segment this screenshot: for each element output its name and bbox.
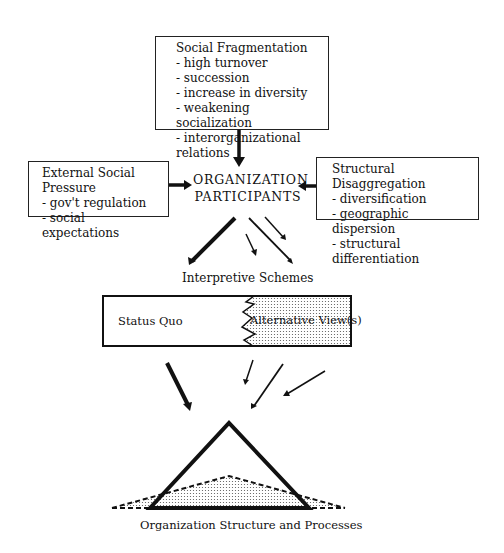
fragmentation-item: - interorganizational relations	[176, 131, 320, 161]
social-fragmentation-title: Social Fragmentation	[176, 41, 320, 56]
fragmentation-item: - weakening socialization	[176, 101, 320, 131]
fragmentation-item: - high turnover	[176, 56, 320, 71]
disaggregation-item: - structural differentiation	[332, 237, 470, 267]
structural-disaggregation-box: Structural Disaggregation - diversificat…	[316, 157, 479, 220]
disaggregation-item: - diversification	[332, 192, 470, 207]
external-pressure-title: External Social Pressure	[42, 166, 160, 196]
external-social-pressure-box: External Social Pressure - gov't regulat…	[28, 161, 169, 217]
organization-structure-label: Organization Structure and Processes	[140, 518, 362, 532]
fragmentation-item: - succession	[176, 71, 320, 86]
alternative-views-label: Alternative View(s)	[250, 313, 362, 327]
structure-triangles	[112, 423, 345, 508]
social-fragmentation-box: Social Fragmentation - high turnover - s…	[155, 36, 329, 130]
external-pressure-item: - social expectations	[42, 211, 160, 241]
organization-label: ORGANIZATION	[193, 172, 303, 187]
structural-disaggregation-title: Structural Disaggregation	[332, 162, 470, 192]
status-quo-label: Status Quo	[118, 314, 183, 328]
interpretive-schemes-label: Interpretive Schemes	[182, 271, 313, 285]
arrow-external-to-participants	[169, 180, 192, 190]
arrows-participants-to-schemes	[188, 217, 293, 265]
external-pressure-item: - gov't regulation	[42, 196, 160, 211]
participants-label: PARTICIPANTS	[193, 189, 303, 204]
disaggregation-item: - geographic dispersion	[332, 207, 470, 237]
arrows-schemes-to-structure	[167, 360, 325, 411]
fragmentation-item: - increase in diversity	[176, 86, 320, 101]
